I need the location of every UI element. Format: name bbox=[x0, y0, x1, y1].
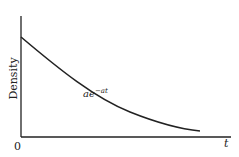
curve-label-exponent: −at bbox=[95, 87, 108, 95]
x-axis-label: t bbox=[224, 137, 228, 150]
origin-label: 0 bbox=[14, 140, 21, 153]
y-axis-label: Density bbox=[7, 54, 20, 104]
plot-area bbox=[0, 0, 239, 157]
curve-label: ae−at bbox=[83, 87, 108, 99]
decay-curve bbox=[21, 37, 200, 131]
curve-label-base: ae bbox=[83, 88, 95, 99]
